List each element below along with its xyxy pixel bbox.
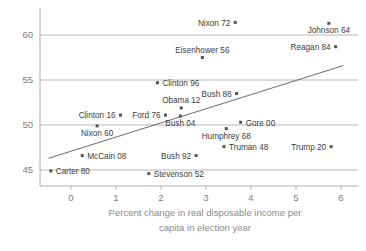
y-tick-label: 50 xyxy=(22,119,33,130)
x-tick-label: 4 xyxy=(248,192,253,203)
y-tick-label: 55 xyxy=(22,74,33,85)
x-tick-label: 2 xyxy=(158,192,163,203)
x-axis-title-line1: Percent change in real disposable income… xyxy=(109,207,302,218)
chart-canvas: 455055600123456Percent change in real di… xyxy=(0,0,366,251)
x-axis-title-line2: capita in election year xyxy=(159,222,251,233)
x-tick-label: 6 xyxy=(338,192,343,203)
scatter-chart: 455055600123456Percent change in real di… xyxy=(0,0,366,251)
y-tick-label: 45 xyxy=(22,164,33,175)
x-tick-label: 5 xyxy=(293,192,298,203)
x-tick-label: 3 xyxy=(203,192,208,203)
x-tick-label: 0 xyxy=(68,192,73,203)
x-tick-label: 1 xyxy=(113,192,118,203)
trend-line xyxy=(49,66,344,159)
y-tick-label: 60 xyxy=(22,29,33,40)
